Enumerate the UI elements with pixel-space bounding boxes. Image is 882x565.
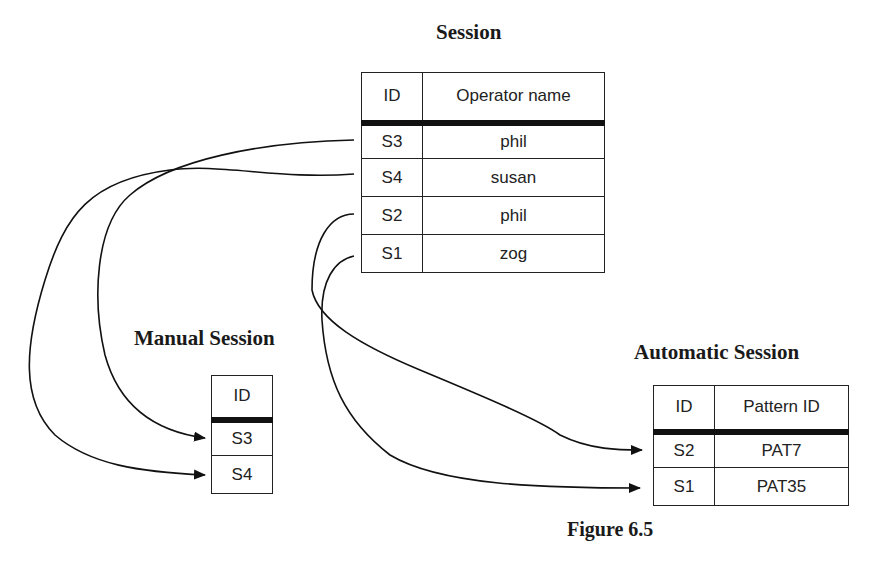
table-row: S4	[212, 456, 273, 494]
cell-id: S1	[362, 235, 423, 273]
cell-id: S2	[362, 197, 423, 235]
session-table: ID Operator name S3 phil S4 susan S2 phi…	[361, 72, 605, 273]
cell-operator-name: zog	[423, 235, 605, 273]
table-row: S3 phil	[362, 123, 605, 159]
cell-id: S2	[654, 432, 715, 468]
arrow-s4-to-manual	[29, 168, 354, 475]
table-row: S1 zog	[362, 235, 605, 273]
cell-operator-name: phil	[423, 197, 605, 235]
cell-id: S3	[212, 420, 273, 456]
cell-id: S3	[362, 123, 423, 159]
cell-id: S4	[362, 159, 423, 197]
cell-operator-name: susan	[423, 159, 605, 197]
automatic-session-title: Automatic Session	[634, 340, 799, 365]
table-row: S3	[212, 420, 273, 456]
figure-caption: Figure 6.5	[567, 518, 653, 541]
column-header-id: ID	[362, 73, 423, 123]
table-row: S1 PAT35	[654, 468, 849, 506]
cell-pattern-id: PAT35	[715, 468, 849, 506]
table-row: S4 susan	[362, 159, 605, 197]
table-row: S2 phil	[362, 197, 605, 235]
table-row: S2 PAT7	[654, 432, 849, 468]
automatic-session-table: ID Pattern ID S2 PAT7 S1 PAT35	[653, 385, 849, 506]
manual-session-table: ID S3 S4	[211, 375, 273, 494]
cell-id: S4	[212, 456, 273, 494]
cell-pattern-id: PAT7	[715, 432, 849, 468]
arrow-s1-to-automatic	[322, 256, 640, 488]
column-header-operator-name: Operator name	[423, 73, 605, 123]
manual-session-title: Manual Session	[134, 326, 275, 351]
session-title: Session	[436, 20, 501, 45]
cell-id: S1	[654, 468, 715, 506]
column-header-pattern-id: Pattern ID	[715, 386, 849, 432]
cell-operator-name: phil	[423, 123, 605, 159]
column-header-id: ID	[654, 386, 715, 432]
column-header-id: ID	[212, 376, 273, 420]
